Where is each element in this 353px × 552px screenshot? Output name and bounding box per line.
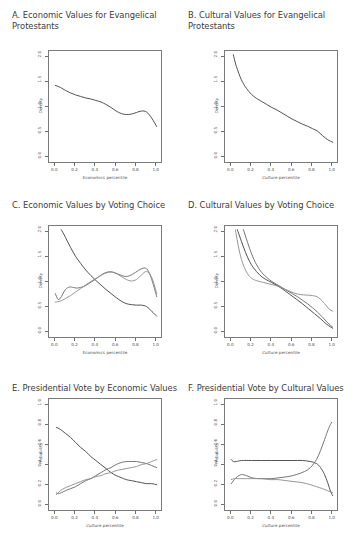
- panel-f-xtick: [331, 511, 332, 514]
- panel-f: F. Presidential Vote by Cultural Values0…: [0, 0, 353, 552]
- figure-panel-grid: A. Economic Values for Evangelical Prote…: [0, 0, 353, 552]
- panel-f-xlabel: Culture percentile: [224, 523, 338, 528]
- panel-f-curves: [225, 399, 338, 511]
- panel-f-plot-area: [224, 398, 338, 511]
- panel-f-xtick: [291, 511, 292, 514]
- panel-f-ytick: [221, 504, 224, 505]
- panel-f-ytick: [221, 444, 224, 445]
- panel-f-xticklabel: 0.4: [268, 515, 275, 520]
- panel-f-xtick: [311, 511, 312, 514]
- panel-f-ytick: [221, 464, 224, 465]
- panel-f-yticklabel: 0.2: [213, 480, 218, 489]
- series-line-3: [231, 479, 332, 493]
- panel-f-ytick: [221, 424, 224, 425]
- panel-f-title: F. Presidential Vote by Cultural Values: [188, 383, 353, 394]
- panel-f-xticklabel: 0.8: [308, 515, 315, 520]
- panel-f-xticklabel: 0.6: [288, 515, 295, 520]
- panel-f-xtick: [230, 511, 231, 514]
- panel-f-yticklabel: 1.0: [213, 399, 218, 408]
- panel-f-ytick: [221, 484, 224, 485]
- panel-f-xtick: [270, 511, 271, 514]
- panel-f-xticklabel: 1.0: [328, 515, 335, 520]
- series-line-2: [231, 422, 331, 483]
- panel-f-xticklabel: 0.0: [227, 515, 234, 520]
- panel-f-yticklabel: 0.8: [213, 419, 218, 428]
- panel-f-ylabel: Probability: [214, 433, 219, 473]
- panel-f-yticklabel: 0.0: [213, 500, 218, 509]
- panel-f-xtick: [250, 511, 251, 514]
- panel-f-ytick: [221, 404, 224, 405]
- panel-f-xticklabel: 0.2: [247, 515, 254, 520]
